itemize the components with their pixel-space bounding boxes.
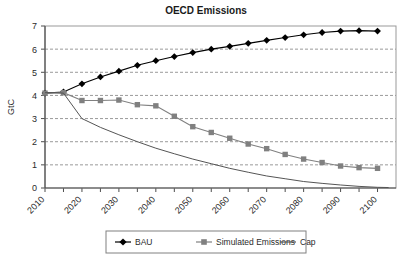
data-point-marker: [227, 136, 232, 141]
legend-label: Cap: [300, 237, 316, 247]
x-tick-label: 2040: [136, 194, 157, 215]
x-tick-label: 2010: [25, 194, 46, 215]
data-point-marker: [245, 40, 252, 47]
series-line: [45, 93, 389, 188]
data-point-marker: [282, 34, 289, 41]
series-simulated-emissions: [42, 90, 380, 171]
y-tick-label: 3: [32, 114, 37, 124]
series-bau: [42, 27, 381, 96]
data-point-marker: [152, 57, 159, 64]
data-point-marker: [282, 152, 287, 157]
x-tick-label: 2090: [321, 194, 342, 215]
y-tick-label: 0: [32, 183, 37, 193]
data-point-marker: [134, 62, 141, 69]
y-tick-label: 1: [32, 160, 37, 170]
data-point-marker: [172, 114, 177, 119]
data-point-marker: [208, 46, 215, 53]
plot-area-border: [45, 26, 396, 188]
data-point-marker: [98, 98, 103, 103]
y-tick-label: 7: [32, 21, 37, 31]
data-point-marker: [190, 124, 195, 129]
data-point-marker: [300, 31, 307, 38]
data-point-marker: [246, 141, 251, 146]
y-axis-ticks: 01234567: [32, 21, 45, 193]
chart-title: OECD Emissions: [165, 5, 247, 16]
data-point-marker: [97, 74, 104, 81]
data-series-layer: [42, 27, 389, 187]
legend-marker-square: [201, 239, 207, 245]
legend-label: BAU: [135, 237, 152, 247]
oecd-emissions-chart: OECD Emissions 01234567 2010202020302040…: [0, 0, 412, 262]
data-point-marker: [264, 146, 269, 151]
data-point-marker: [319, 160, 324, 165]
x-tick-label: 2070: [247, 194, 268, 215]
x-tick-label: 2050: [173, 194, 194, 215]
data-point-marker: [263, 37, 270, 44]
data-point-marker: [338, 163, 343, 168]
y-tick-label: 6: [32, 45, 37, 55]
data-point-marker: [301, 156, 306, 161]
data-point-marker: [153, 103, 158, 108]
y-tick-label: 5: [32, 68, 37, 78]
data-point-marker: [337, 28, 344, 35]
x-axis-ticks: 2010202020302040205020602070208020902100: [25, 188, 379, 216]
gridlines: [45, 49, 396, 165]
y-tick-label: 2: [32, 137, 37, 147]
y-tick-label: 4: [32, 91, 37, 101]
series-cap: [45, 93, 389, 188]
x-tick-label: 2060: [210, 194, 231, 215]
data-point-marker: [356, 165, 361, 170]
x-tick-label: 2030: [99, 194, 120, 215]
data-point-marker: [319, 29, 326, 36]
series-line: [45, 31, 378, 93]
data-point-marker: [171, 53, 178, 60]
data-point-marker: [356, 27, 363, 34]
data-point-marker: [209, 130, 214, 135]
data-point-marker: [189, 49, 196, 56]
data-point-marker: [79, 80, 86, 87]
legend-entries: BAUSimulated EmissionsCap: [115, 237, 316, 247]
data-point-marker: [374, 28, 381, 35]
x-tick-label: 2020: [62, 194, 83, 215]
data-point-marker: [116, 97, 121, 102]
y-axis-title: GtC: [6, 99, 16, 116]
x-tick-label: 2080: [284, 194, 305, 215]
chart-container: OECD Emissions 01234567 2010202020302040…: [0, 0, 412, 262]
data-point-marker: [375, 166, 380, 171]
x-tick-label: 2100: [358, 194, 379, 215]
data-point-marker: [79, 98, 84, 103]
data-point-marker: [135, 102, 140, 107]
data-point-marker: [115, 68, 122, 75]
